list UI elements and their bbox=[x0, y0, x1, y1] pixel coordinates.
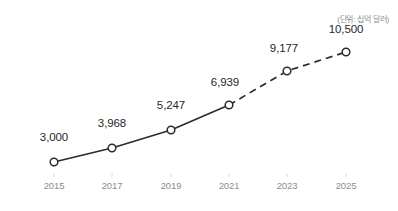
value-label-2023: 9,177 bbox=[270, 42, 298, 54]
line-chart: (단위: 십억 달러) bbox=[0, 0, 398, 211]
value-label-2015: 3,000 bbox=[40, 131, 68, 143]
value-label-2021: 6,939 bbox=[211, 76, 239, 88]
value-label-2019: 5,247 bbox=[157, 99, 185, 111]
x-axis-ticks bbox=[54, 174, 346, 178]
marker-2025 bbox=[342, 48, 350, 56]
x-tick-label-2025: 2025 bbox=[336, 180, 357, 191]
marker-2019 bbox=[167, 126, 175, 134]
x-tick-label-2021: 2021 bbox=[219, 180, 240, 191]
x-tick-label-2023: 2023 bbox=[277, 180, 298, 191]
marker-2015 bbox=[50, 158, 58, 166]
value-label-2025: 10,500 bbox=[329, 23, 364, 35]
marker-2017 bbox=[108, 144, 116, 152]
marker-2023 bbox=[283, 67, 291, 75]
series-line-forecast bbox=[229, 52, 346, 105]
series-line-actual bbox=[54, 105, 229, 162]
x-tick-label-2017: 2017 bbox=[102, 180, 123, 191]
x-tick-label-2015: 2015 bbox=[44, 180, 65, 191]
value-label-2017: 3,968 bbox=[98, 117, 126, 129]
marker-2021 bbox=[225, 101, 233, 109]
x-tick-label-2019: 2019 bbox=[161, 180, 182, 191]
